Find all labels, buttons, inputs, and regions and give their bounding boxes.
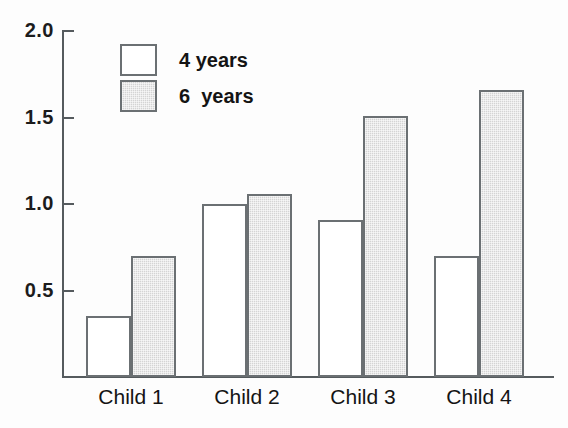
bar-child-4-4-years (434, 256, 479, 377)
legend-label-6-years: 6 years (179, 86, 254, 106)
legend-item-6-years: 6 years (120, 78, 254, 114)
bars-layer (0, 0, 568, 377)
bar-chart-figure: 2.01.51.00.5 Child 1Child 2Child 3Child … (0, 0, 568, 428)
chart-legend: 4 years 6 years (120, 42, 254, 114)
bar-child-1-6-years (131, 256, 176, 377)
x-axis-label-child-3: Child 3 (304, 385, 422, 408)
bar-child-3-4-years (318, 220, 363, 377)
bar-child-2-6-years (247, 194, 292, 377)
legend-swatch-6-years (120, 80, 157, 112)
plot-area: 2.01.51.00.5 Child 1Child 2Child 3Child … (0, 0, 568, 428)
legend-item-4-years: 4 years (120, 42, 254, 78)
bar-child-3-6-years (363, 116, 408, 377)
x-axis-label-child-4: Child 4 (420, 385, 538, 408)
bar-child-4-6-years (479, 90, 524, 377)
bar-child-1-4-years (86, 316, 131, 377)
legend-swatch-4-years (120, 44, 157, 76)
x-axis-label-child-1: Child 1 (72, 385, 190, 408)
bar-child-2-4-years (202, 204, 247, 377)
legend-label-4-years: 4 years (179, 50, 248, 70)
x-axis-label-child-2: Child 2 (188, 385, 306, 408)
